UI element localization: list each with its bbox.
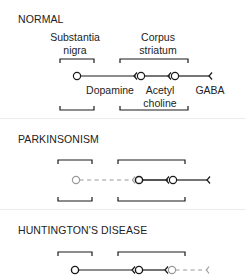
gaba-terminal-icon xyxy=(207,267,210,274)
bracket-corpus-striatum-top xyxy=(120,59,188,63)
gaba-terminal-icon xyxy=(209,73,212,80)
bracket-corpus-striatum-bottom xyxy=(118,197,185,201)
bracket-substantia-nigra-bottom xyxy=(60,106,94,110)
dopamine-neuron-icon xyxy=(73,72,80,79)
gaba-neuron-icon xyxy=(169,176,176,183)
pathway-parkinsonism xyxy=(58,160,210,201)
neural-pathway-diagram xyxy=(0,0,246,280)
acetylcholine-synapse-icon xyxy=(165,267,168,274)
gaba-neuron-icon xyxy=(171,72,178,79)
acetylcholine-neuron-icon xyxy=(137,72,144,79)
pathway-huntingtons xyxy=(58,252,209,274)
bracket-corpus-striatum-top xyxy=(118,252,185,256)
acetylcholine-neuron-icon xyxy=(135,266,142,273)
dopamine-neuron-icon xyxy=(72,176,79,183)
bracket-substantia-nigra-top xyxy=(58,252,92,256)
pathway-normal xyxy=(60,59,212,110)
dopamine-neuron-icon xyxy=(71,266,78,273)
bracket-corpus-striatum-bottom xyxy=(120,106,188,110)
bracket-substantia-nigra-top xyxy=(60,59,94,63)
gaba-terminal-icon xyxy=(207,177,210,184)
bracket-corpus-striatum-top xyxy=(118,160,185,164)
gaba-neuron-icon xyxy=(168,266,175,273)
dopamine-synapse-icon xyxy=(132,267,135,274)
bracket-substantia-nigra-top xyxy=(58,160,92,164)
dopamine-synapse-icon xyxy=(133,177,136,184)
acetylcholine-neuron-icon xyxy=(135,176,142,183)
bracket-substantia-nigra-bottom xyxy=(58,197,92,201)
